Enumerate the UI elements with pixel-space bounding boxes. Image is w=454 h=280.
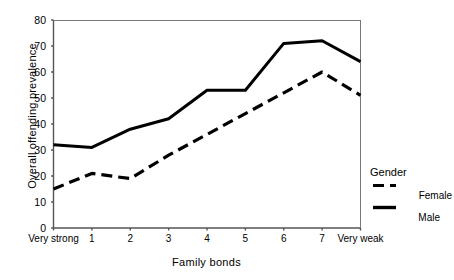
legend-swatch-dashed-icon	[372, 181, 412, 190]
series-lines	[54, 41, 361, 189]
legend-entry-male: Male	[370, 203, 454, 224]
x-tick-label: 4	[204, 233, 210, 245]
x-tick-label: Very weak	[337, 233, 383, 245]
legend-title: Gender	[370, 166, 454, 179]
series-line-male	[54, 41, 361, 148]
axis-lines	[54, 20, 361, 228]
x-axis-title: Family bonds	[53, 256, 360, 268]
x-tick-label: 6	[281, 233, 287, 245]
chart-figure: Overall offending prevalence 01020304050…	[0, 0, 454, 280]
x-tick-label: 1	[89, 233, 95, 245]
x-tick-label: 7	[319, 233, 325, 245]
x-tick-label: 5	[243, 233, 249, 245]
legend-swatch-solid-icon	[372, 203, 412, 212]
legend-entry-female: Female	[370, 181, 454, 202]
x-tick-label: Very strong	[28, 233, 79, 245]
legend-label-female: Female	[370, 190, 454, 202]
x-tick-label: 3	[166, 233, 172, 245]
x-tick-label: 2	[127, 233, 133, 245]
chart-legend: Gender Female Male	[370, 166, 454, 224]
legend-label-male: Male	[370, 212, 454, 224]
x-axis-tick-labels: Very strong1234567Very weak	[0, 233, 454, 249]
